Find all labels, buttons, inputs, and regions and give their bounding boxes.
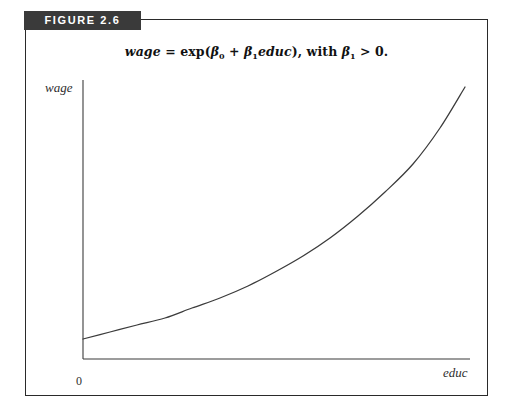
- x-axis-label: educ: [443, 366, 468, 379]
- equation-close-paren: ),: [292, 44, 302, 59]
- y-axis-label: wage: [45, 81, 72, 94]
- origin-tick-label: 0: [76, 375, 82, 387]
- equation-beta-0-subscript: 0: [219, 51, 225, 61]
- equation-beta-1-condition: β: [342, 44, 350, 59]
- figure-container: FIGURE 2.6 wage = exp(β0 + β1educ), with…: [0, 0, 513, 420]
- equation-lhs: wage: [125, 44, 161, 59]
- equation-beta-0: β: [211, 44, 219, 59]
- figure-frame-border: [25, 19, 488, 396]
- equation-caption: wage = exp(β0 + β1educ), with β1 > 0.: [0, 44, 513, 61]
- equation-equals: =: [165, 44, 176, 59]
- equation-condition-value: 0.: [375, 44, 388, 59]
- figure-number-label: FIGURE 2.6: [45, 15, 121, 26]
- figure-number-banner: FIGURE 2.6: [24, 11, 141, 30]
- equation-plus: +: [229, 44, 240, 59]
- equation-with-word: with: [307, 44, 338, 59]
- equation-greater-than: >: [360, 44, 371, 59]
- equation-exp-open: exp(: [180, 44, 210, 59]
- equation-regressor: educ: [258, 44, 292, 59]
- equation-beta-1-condition-subscript: 1: [350, 51, 356, 61]
